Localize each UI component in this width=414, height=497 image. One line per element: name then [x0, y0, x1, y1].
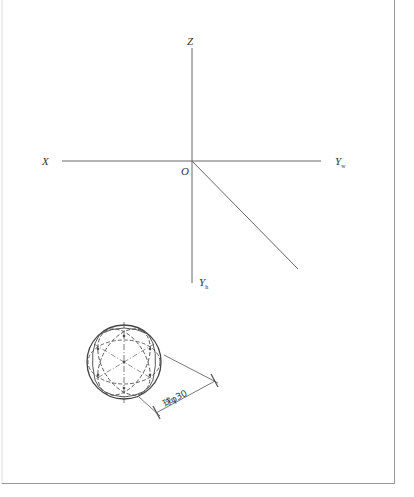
- sphere-drawing: [87, 320, 161, 404]
- yw-subscript: w: [341, 163, 345, 169]
- x-axis-label: X: [42, 156, 49, 167]
- drawing-canvas: [0, 0, 414, 497]
- yh-subscript: h: [205, 284, 208, 290]
- z-axis-label: Z: [187, 36, 193, 47]
- yw-yh-diagonal: [192, 161, 298, 269]
- yw-axis-label: Yw: [335, 156, 345, 169]
- yh-axis-label: Yh: [199, 277, 208, 290]
- origin-label: O: [181, 166, 189, 177]
